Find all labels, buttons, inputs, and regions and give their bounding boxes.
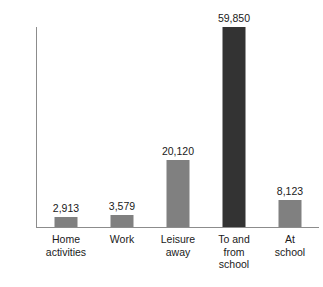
- bar-value-label: 8,123: [277, 185, 303, 197]
- bar[interactable]: 8,123: [279, 200, 302, 227]
- x-axis-labels: HomeactivitiesWorkLeisureawayTo andfroms…: [37, 233, 319, 285]
- category-label-line: school: [262, 246, 318, 259]
- bar[interactable]: 20,120: [167, 160, 190, 227]
- bar[interactable]: 2,913: [55, 217, 78, 227]
- category-label-line: At: [262, 233, 318, 246]
- category-label-line: To and: [206, 233, 262, 246]
- category-label: Atschool: [262, 233, 318, 258]
- category-label: Leisureaway: [150, 233, 206, 258]
- bar-value-label: 3,579: [109, 200, 135, 212]
- category-label-line: Leisure: [150, 233, 206, 246]
- category-label-line: from: [206, 246, 262, 259]
- category-label-line: school: [206, 258, 262, 271]
- plot-area: 2,9133,57920,12059,8508,123: [37, 27, 319, 227]
- bar-slot: 20,120: [150, 27, 206, 227]
- category-label: To andfromschool: [206, 233, 262, 271]
- bar-chart: Victimization per billion person-hours 2…: [0, 0, 323, 287]
- bar-value-label: 20,120: [162, 145, 194, 157]
- x-axis-line: [36, 227, 319, 228]
- bar[interactable]: 3,579: [111, 215, 134, 227]
- category-label-line: Home: [38, 233, 94, 246]
- bar[interactable]: 59,850: [223, 27, 246, 227]
- bar-slot: 8,123: [262, 27, 318, 227]
- category-label-line: away: [150, 246, 206, 259]
- category-label-line: activities: [38, 246, 94, 259]
- bar-slot: 2,913: [38, 27, 94, 227]
- bar-value-label: 59,850: [218, 12, 250, 24]
- bar-value-label: 2,913: [53, 202, 79, 214]
- bar-slot: 3,579: [94, 27, 150, 227]
- category-label: Work: [94, 233, 150, 246]
- bar-slot: 59,850: [206, 27, 262, 227]
- category-label: Homeactivities: [38, 233, 94, 258]
- category-label-line: Work: [94, 233, 150, 246]
